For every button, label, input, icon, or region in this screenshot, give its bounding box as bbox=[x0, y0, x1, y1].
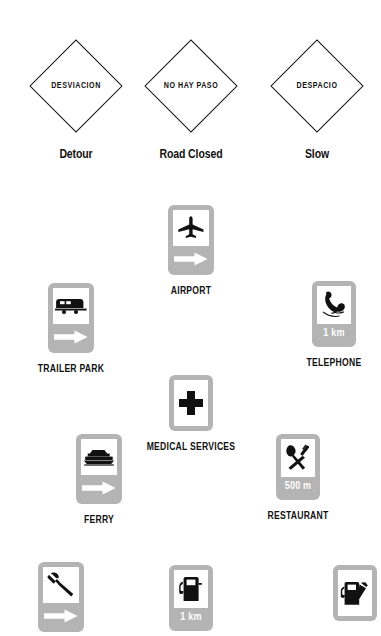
symbol-panel bbox=[173, 210, 209, 246]
sign-cell-detour: DESVIACION Detour bbox=[14, 38, 138, 159]
road-closed-diamond-sign: NO HAY PASO bbox=[143, 38, 239, 134]
caption-trailer-park: TRAILER PARK bbox=[38, 362, 104, 375]
sign-cell-trailer-park: TRAILER PARK bbox=[24, 283, 118, 373]
detour-sign-text: DESVIACION bbox=[51, 81, 101, 90]
arrow-area bbox=[81, 475, 117, 499]
sign-cell-road-closed: NO HAY PASO Road Closed bbox=[136, 38, 246, 159]
gas-pump-nozzle-icon bbox=[340, 578, 370, 608]
medical-services-guide-sign bbox=[169, 375, 213, 431]
caption-telephone: TELEPHONE bbox=[307, 356, 362, 369]
airplane-icon bbox=[176, 215, 206, 241]
gas-station-nozzle-guide-sign bbox=[333, 565, 377, 621]
gas-station-distance-guide-sign: 1 km bbox=[169, 565, 213, 631]
medical-cross-icon bbox=[177, 389, 205, 417]
sign-cell-mechanic bbox=[14, 562, 108, 636]
distance-area: 1 km bbox=[317, 324, 351, 342]
caption-detour: Detour bbox=[59, 146, 92, 161]
ferry-boat-icon bbox=[83, 447, 115, 467]
symbol-panel bbox=[53, 288, 89, 324]
distance-area: 1 km bbox=[174, 608, 208, 626]
trailer-caravan-icon bbox=[55, 296, 87, 316]
road-closed-sign-text: NO HAY PASO bbox=[164, 81, 218, 90]
symbol-panel bbox=[81, 439, 117, 475]
slow-sign-text: DESPACIO bbox=[297, 81, 338, 90]
symbol-panel bbox=[338, 570, 372, 616]
telephone-distance-text: 1 km bbox=[323, 327, 344, 338]
mechanic-guide-sign bbox=[38, 562, 84, 632]
sign-cell-medical-services: MEDICAL SERVICES bbox=[144, 375, 238, 451]
symbol-panel bbox=[281, 439, 315, 477]
distance-area: 500 m bbox=[281, 477, 315, 495]
restaurant-guide-sign: 500 m bbox=[276, 434, 320, 500]
arrow-right-icon bbox=[54, 330, 88, 344]
arrow-right-icon bbox=[44, 609, 78, 623]
detour-diamond-sign: DESVIACION bbox=[28, 38, 124, 134]
arrow-area bbox=[53, 324, 89, 348]
caption-slow: Slow bbox=[305, 146, 329, 161]
symbol-panel bbox=[43, 567, 79, 603]
airport-guide-sign bbox=[168, 205, 214, 275]
caption-road-closed: Road Closed bbox=[159, 146, 222, 161]
telephone-handset-icon bbox=[320, 290, 348, 320]
gas-station-distance-text: 1 km bbox=[180, 611, 201, 622]
symbol-panel bbox=[174, 380, 208, 426]
slow-diamond-sign: DESPACIO bbox=[269, 38, 365, 134]
sign-cell-airport: AIRPORT bbox=[144, 205, 238, 295]
sign-cell-slow: DESPACIO Slow bbox=[262, 38, 372, 159]
restaurant-distance-text: 500 m bbox=[285, 480, 312, 491]
symbol-panel bbox=[174, 570, 208, 608]
caption-medical-services: MEDICAL SERVICES bbox=[147, 440, 236, 453]
sign-cell-gas-station-nozzle bbox=[310, 565, 381, 631]
arrow-right-icon bbox=[82, 481, 116, 495]
ferry-guide-sign bbox=[76, 434, 122, 504]
caption-ferry: FERRY bbox=[84, 513, 114, 526]
sign-cell-gas-station-distance: 1 km bbox=[146, 565, 236, 636]
caption-airport: AIRPORT bbox=[171, 284, 211, 297]
trailer-park-guide-sign bbox=[48, 283, 94, 353]
fork-knife-icon bbox=[283, 443, 313, 473]
arrow-area bbox=[43, 603, 79, 627]
gas-pump-icon bbox=[178, 575, 204, 603]
sign-cell-ferry: FERRY bbox=[52, 434, 146, 524]
sign-cell-restaurant: 500 m RESTAURANT bbox=[253, 434, 343, 520]
arrow-right-icon bbox=[174, 252, 208, 266]
symbol-panel bbox=[317, 286, 351, 324]
hammer-tool-icon bbox=[47, 571, 75, 599]
caption-restaurant: RESTAURANT bbox=[267, 509, 328, 522]
telephone-guide-sign: 1 km bbox=[312, 281, 356, 347]
arrow-area bbox=[173, 246, 209, 270]
sign-cell-telephone: 1 km TELEPHONE bbox=[289, 281, 379, 367]
